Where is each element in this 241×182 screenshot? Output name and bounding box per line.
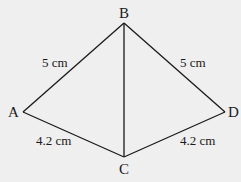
edge-label-cd: 4.2 cm [180,133,215,148]
edge-bd [124,23,225,112]
vertex-label-b: B [119,5,129,21]
edge-label-ac: 4.2 cm [36,133,71,148]
vertex-label-a: A [8,104,19,120]
edge-label-ab: 5 cm [42,55,68,70]
vertex-label-d: D [228,104,239,120]
edge-label-bd: 5 cm [180,55,206,70]
vertex-label-c: C [119,161,129,177]
kite-diagram: A B C D 5 cm 5 cm 4.2 cm 4.2 cm [0,0,241,182]
edge-ab [23,23,124,112]
